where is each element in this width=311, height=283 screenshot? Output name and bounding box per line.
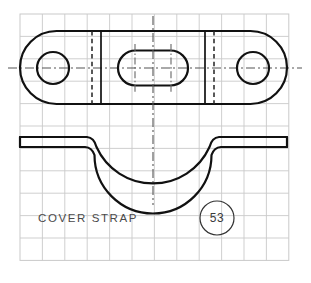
balloon-number: 53 <box>210 211 225 225</box>
top-view <box>8 31 302 104</box>
item-balloon[interactable]: 53 <box>200 201 234 235</box>
technical-drawing-canvas: 53 COVER STRAP <box>0 0 311 283</box>
part-name-label: COVER STRAP <box>38 212 138 224</box>
drawing-sheet: 53 COVER STRAP <box>0 0 311 283</box>
